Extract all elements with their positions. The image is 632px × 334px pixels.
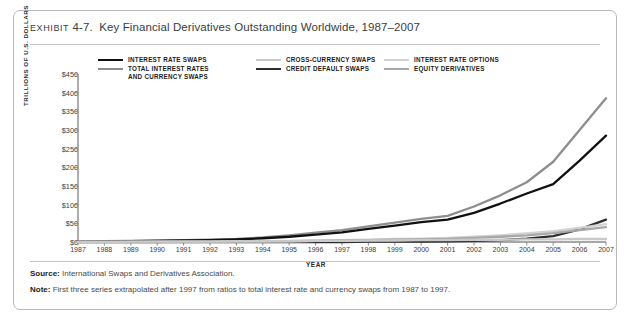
x-tick-label: 2007 [598, 246, 614, 253]
x-tick-label: 2001 [440, 246, 456, 253]
x-tick-label: 1990 [149, 246, 165, 253]
explanatory-note: Note: First three series extrapolated af… [30, 284, 600, 296]
x-tick-label: 2003 [493, 246, 509, 253]
source-text: International Swaps and Derivatives Asso… [60, 269, 235, 278]
chart-plot-area: TRILLIONS OF U.S. DOLLARS $0$50$100$150$… [14, 11, 618, 311]
x-tick-label: 1997 [334, 246, 350, 253]
x-tick-label: 1987 [70, 246, 86, 253]
x-tick-label: 2005 [545, 246, 561, 253]
x-tick-label: 2000 [413, 246, 429, 253]
source-note: Source: International Swaps and Derivati… [30, 268, 600, 280]
series-line-0 [78, 98, 606, 241]
x-tick-label: 1995 [281, 246, 297, 253]
source-label: Source: [30, 269, 60, 278]
x-tick-label: 2002 [466, 246, 482, 253]
note-text: First three series extrapolated after 19… [50, 285, 450, 294]
x-tick-label: 1998 [361, 246, 377, 253]
x-tick-label: 1991 [176, 246, 192, 253]
x-tick-label: 2006 [572, 246, 588, 253]
x-tick-label: 1996 [308, 246, 324, 253]
exhibit-figure: EXHIBIT 4-7. Key Financial Derivatives O… [13, 10, 617, 310]
x-tick-label: 1999 [387, 246, 403, 253]
figure-notes: Source: International Swaps and Derivati… [30, 268, 600, 301]
x-tick-label: 1992 [202, 246, 218, 253]
x-tick-label: 1993 [229, 246, 245, 253]
footer-divider [30, 261, 600, 262]
x-tick-label: 2004 [519, 246, 535, 253]
x-axis-ticks: 1987198819891990199119921993199419951996… [14, 246, 618, 260]
x-tick-label: 1988 [97, 246, 113, 253]
note-label: Note: [30, 285, 50, 294]
series-line-1 [78, 136, 606, 242]
x-tick-label: 1994 [255, 246, 271, 253]
x-tick-label: 1989 [123, 246, 139, 253]
